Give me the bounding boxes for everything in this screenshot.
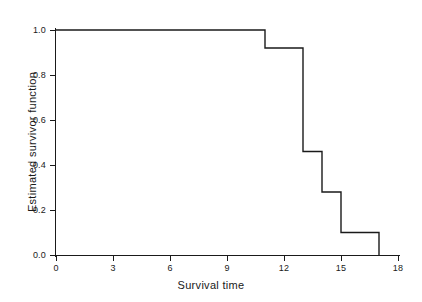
y-tick-mark <box>50 30 55 31</box>
x-tick-label: 6 <box>158 264 182 273</box>
step-curve-svg <box>56 30 398 255</box>
x-tick-mark <box>56 256 57 261</box>
x-tick-label: 15 <box>329 264 353 273</box>
y-tick-label: 1.0 <box>22 26 46 35</box>
y-tick-mark <box>50 165 55 166</box>
x-tick-label: 3 <box>101 264 125 273</box>
y-tick-mark <box>50 75 55 76</box>
x-tick-mark <box>398 256 399 261</box>
x-tick-mark <box>113 256 114 261</box>
x-tick-mark <box>170 256 171 261</box>
x-tick-label: 12 <box>272 264 296 273</box>
survival-function-chart: 0.00.20.40.60.81.0 0369121518 Survival t… <box>0 0 422 302</box>
x-tick-mark <box>227 256 228 261</box>
y-tick-label: 0.0 <box>22 251 46 260</box>
survivor-step-curve <box>56 30 379 255</box>
x-tick-mark <box>341 256 342 261</box>
x-axis-label: Survival time <box>0 279 422 291</box>
y-tick-mark <box>50 120 55 121</box>
plot-area <box>56 30 398 255</box>
x-tick-mark <box>284 256 285 261</box>
y-axis-label: Estimated survivor function <box>26 47 38 237</box>
y-tick-mark <box>50 210 55 211</box>
x-tick-label: 18 <box>386 264 410 273</box>
x-tick-label: 9 <box>215 264 239 273</box>
y-tick-mark <box>50 255 55 256</box>
x-tick-label: 0 <box>44 264 68 273</box>
